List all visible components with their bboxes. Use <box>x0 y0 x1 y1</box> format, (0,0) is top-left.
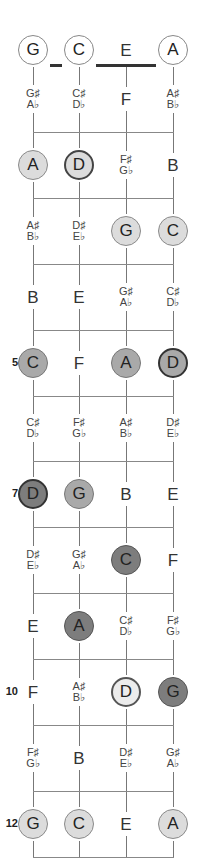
fret-6-note: D♯E♭ <box>156 414 190 442</box>
fret-2-note: D <box>62 148 96 182</box>
fret-7-note: D <box>16 477 50 511</box>
note-label: E <box>120 816 131 833</box>
fret-3-note: C <box>156 214 190 248</box>
fretboard-diagram: GCEAG♯A♭C♯D♭FA♯B♭ADF♯G♭BA♯B♭D♯E♭GCBEG♯A♭… <box>0 0 200 868</box>
flat-label: G♭ <box>119 165 133 176</box>
flat-label: G♭ <box>72 428 86 439</box>
flat-label: E♭ <box>120 758 132 769</box>
fret-9-note: E <box>16 614 50 638</box>
fret-number: 7 <box>4 487 18 499</box>
fret-line-3 <box>33 264 174 265</box>
nut <box>33 64 174 67</box>
open-string-note: C <box>62 33 96 67</box>
fret-9-note: C♯D♭ <box>109 612 143 640</box>
fret-8-note: C <box>109 543 143 577</box>
fret-8-note: D♯E♭ <box>16 546 50 574</box>
fret-line-12 <box>33 857 174 858</box>
note-label: F <box>168 552 178 569</box>
note-marker: G <box>111 216 141 246</box>
fret-1-note: A♯B♭ <box>156 85 190 113</box>
fret-6-note: F♯G♭ <box>62 414 96 442</box>
note-marker: A <box>111 348 141 378</box>
fret-11-note: G♯A♭ <box>156 744 190 772</box>
fret-12-note: A <box>156 807 190 841</box>
flat-label: G♭ <box>166 626 180 637</box>
flat-label: B♭ <box>73 692 85 703</box>
note-marker: G <box>18 35 48 65</box>
flat-label: B♭ <box>27 231 39 242</box>
fret-4-note: B <box>16 285 50 309</box>
flat-label: D♭ <box>120 626 133 637</box>
flat-label: D♭ <box>167 297 180 308</box>
fret-2-note: B <box>156 153 190 177</box>
fret-11-note: D♯E♭ <box>109 744 143 772</box>
fret-2-note: A <box>16 148 50 182</box>
flat-label: E♭ <box>27 560 39 571</box>
fret-10-note: F <box>16 680 50 704</box>
fret-number: 12 <box>4 817 18 829</box>
fret-4-note: G♯A♭ <box>109 283 143 311</box>
flat-label: B♭ <box>120 428 132 439</box>
note-marker: C <box>18 348 48 378</box>
flat-label: B♭ <box>167 99 179 110</box>
note-marker: C <box>64 35 94 65</box>
note-marker: A <box>158 35 188 65</box>
note-marker: C <box>158 216 188 246</box>
note-label: E <box>120 42 131 59</box>
fret-9-note: A <box>62 609 96 643</box>
note-marker: D <box>158 348 188 378</box>
note-label: F <box>28 684 38 701</box>
fret-12-note: C <box>62 807 96 841</box>
fret-8-note: G♯A♭ <box>62 546 96 574</box>
open-string-note: E <box>109 38 143 62</box>
fret-line-5 <box>33 396 174 397</box>
flat-label: D♭ <box>73 99 86 110</box>
fret-line-9 <box>33 659 174 660</box>
note-marker: G <box>158 677 188 707</box>
note-marker: G <box>18 809 48 839</box>
fret-line-11 <box>33 791 174 792</box>
note-marker: A <box>158 809 188 839</box>
note-marker: D <box>18 479 48 509</box>
fret-line-10 <box>33 725 174 726</box>
fret-1-note: G♯A♭ <box>16 85 50 113</box>
note-label: E <box>73 289 84 306</box>
fret-5-note: F <box>62 351 96 375</box>
flat-label: G♭ <box>26 758 40 769</box>
note-marker: D <box>64 150 94 180</box>
flat-label: A♭ <box>27 99 39 110</box>
fret-7-note: B <box>109 482 143 506</box>
fret-9-note: F♯G♭ <box>156 612 190 640</box>
fret-line-8 <box>33 593 174 594</box>
fret-10-note: A♯B♭ <box>62 678 96 706</box>
flat-label: A♭ <box>73 560 85 571</box>
note-marker: A <box>18 150 48 180</box>
flat-label: A♭ <box>120 297 132 308</box>
fret-7-note: E <box>156 482 190 506</box>
note-label: F <box>74 355 84 372</box>
fret-number: 5 <box>4 356 18 368</box>
note-marker: D <box>111 677 141 707</box>
fret-5-note: D <box>156 346 190 380</box>
note-marker: C <box>64 809 94 839</box>
fret-4-note: E <box>62 285 96 309</box>
fret-2-note: F♯G♭ <box>109 151 143 179</box>
fret-11-note: B <box>62 746 96 770</box>
flat-label: A♭ <box>167 758 179 769</box>
fret-number: 10 <box>4 685 18 697</box>
fret-11-note: F♯G♭ <box>16 744 50 772</box>
flat-label: E♭ <box>167 428 179 439</box>
note-marker: C <box>111 545 141 575</box>
note-label: B <box>27 289 38 306</box>
flat-label: E♭ <box>73 231 85 242</box>
fret-3-note: A♯B♭ <box>16 217 50 245</box>
fret-5-note: A <box>109 346 143 380</box>
fret-line-6 <box>33 461 174 462</box>
fret-10-note: D <box>109 675 143 709</box>
fret-line-2 <box>33 198 174 199</box>
fret-3-note: D♯E♭ <box>62 217 96 245</box>
open-string-note: A <box>156 33 190 67</box>
note-label: B <box>73 750 84 767</box>
fret-6-note: C♯D♭ <box>16 414 50 442</box>
note-marker: G <box>64 479 94 509</box>
